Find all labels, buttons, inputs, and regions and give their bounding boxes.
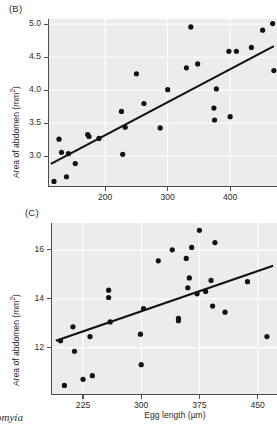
data-point [139, 362, 144, 367]
panel-b-plot-area [49, 19, 277, 186]
panel-b-y-axis-label: Area of abdomen (mm2) [11, 86, 21, 178]
x-tick [199, 395, 200, 399]
data-point [96, 136, 101, 141]
data-point [184, 65, 189, 70]
y-tick [47, 347, 51, 348]
data-point [66, 151, 71, 156]
x-tick [230, 187, 231, 191]
x-tick-label: 300 [148, 192, 188, 202]
data-point [80, 377, 85, 382]
y-tick [44, 90, 48, 91]
data-point [185, 285, 190, 290]
x-tick-label: 450 [238, 400, 277, 410]
panel-b-x-axis-line [48, 186, 277, 187]
data-point [188, 24, 193, 29]
panel-b: (B) Area of abdomen (mm2) 3.03.54.04.55.… [0, 0, 277, 205]
data-point [56, 137, 61, 142]
data-point [158, 125, 163, 130]
figure-container: (B) Area of abdomen (mm2) 3.03.54.04.55.… [0, 0, 277, 433]
data-point [195, 61, 200, 66]
data-point [234, 49, 239, 54]
data-point [156, 258, 161, 263]
data-point [58, 338, 63, 343]
x-tick-label: 225 [63, 400, 103, 410]
data-point [86, 134, 91, 139]
data-point [51, 179, 56, 184]
data-point [226, 49, 231, 54]
x-tick-label: 400 [210, 192, 250, 202]
x-tick [82, 395, 83, 399]
data-point [138, 332, 143, 337]
y-tick-label: 4.0 [3, 84, 41, 94]
data-point [134, 71, 139, 76]
data-point [70, 324, 75, 329]
x-tick [167, 187, 168, 191]
y-tick-label: 4.5 [3, 51, 41, 61]
data-point [210, 303, 215, 308]
data-point [184, 256, 189, 261]
y-tick [47, 298, 51, 299]
data-point [270, 21, 275, 26]
x-tick [141, 395, 142, 399]
x-tick [257, 395, 258, 399]
y-tick-label: 5.0 [3, 18, 41, 28]
data-point [59, 150, 64, 155]
data-point [249, 45, 254, 50]
y-tick [44, 57, 48, 58]
data-point [203, 289, 208, 294]
data-point [197, 228, 202, 233]
data-point [120, 152, 125, 157]
data-point [212, 117, 217, 122]
data-point [260, 28, 265, 33]
panel-b-y-axis-line [48, 19, 49, 186]
data-point [108, 319, 113, 324]
panel-c: (C) Area of abdomen (mm2) 12141622530037… [0, 205, 277, 433]
panel-c-label: (C) [25, 207, 39, 218]
panel-b-scatter-svg [49, 19, 277, 186]
panel-c-scatter-svg [52, 223, 277, 394]
data-point [141, 101, 146, 106]
data-point [214, 86, 219, 91]
x-tick [105, 187, 106, 191]
data-point [123, 125, 128, 130]
panel-c-y-axis-label: Area of abdomen (mm2) [11, 294, 21, 386]
panel-c-x-axis-line [51, 394, 277, 395]
data-point [73, 161, 78, 166]
panel-b-label: (B) [9, 3, 22, 14]
data-point [119, 109, 124, 114]
y-tick [44, 156, 48, 157]
x-tick-label: 300 [121, 400, 161, 410]
data-point [228, 114, 233, 119]
data-point [208, 278, 213, 283]
y-tick-label: 3.0 [3, 150, 41, 160]
y-tick [44, 24, 48, 25]
data-point [222, 310, 227, 315]
panel-c-plot-area [52, 223, 277, 394]
data-point [271, 68, 276, 73]
data-point [106, 288, 111, 293]
y-tick [47, 249, 51, 250]
data-point [170, 247, 175, 252]
y-tick [44, 123, 48, 124]
data-point [176, 318, 181, 323]
data-point [165, 87, 170, 92]
y-tick-label: 14 [6, 293, 44, 303]
data-point [187, 275, 192, 280]
data-point [264, 334, 269, 339]
data-point [141, 306, 146, 311]
panel-c-y-axis-line [51, 223, 52, 394]
panel-b-y-axis-label-text: Area of abdomen (mm [11, 93, 21, 179]
data-point [194, 291, 199, 296]
data-point [211, 106, 216, 111]
figure-caption-genus: omyia [0, 411, 23, 423]
data-point [72, 349, 77, 354]
data-point [64, 174, 69, 179]
data-point [106, 295, 111, 300]
data-point [87, 334, 92, 339]
trend-line [51, 46, 274, 164]
x-tick-label: 200 [85, 192, 125, 202]
y-tick-label: 3.5 [3, 117, 41, 127]
y-tick-label: 12 [6, 342, 44, 352]
x-tick-label: 375 [179, 400, 219, 410]
data-point [62, 383, 67, 388]
